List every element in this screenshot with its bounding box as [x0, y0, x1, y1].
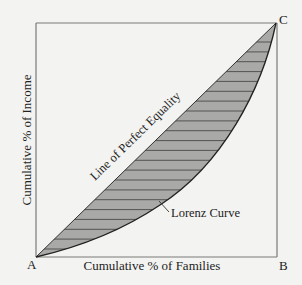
point-b-label: B [279, 258, 288, 273]
y-axis-label: Cumulative % of Income [19, 74, 34, 205]
lorenz-curve-label: Lorenz Curve [171, 206, 241, 220]
lorenz-curve-diagram: A B C Cumulative % of Families Cumulativ… [0, 0, 302, 285]
point-c-label: C [279, 12, 288, 27]
x-axis-label: Cumulative % of Families [84, 258, 221, 273]
point-a-label: A [27, 257, 37, 272]
line-of-perfect-equality [36, 23, 276, 257]
